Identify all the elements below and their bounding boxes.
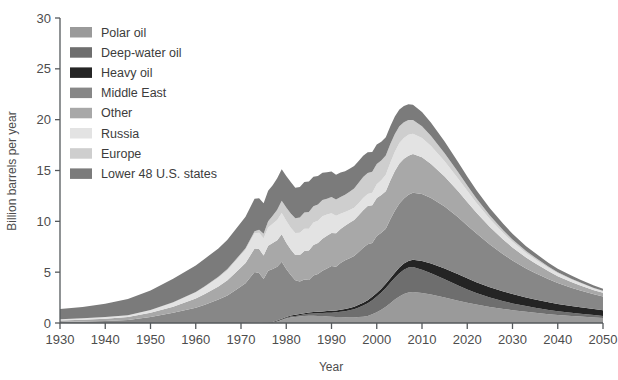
legend-swatch-russia bbox=[70, 128, 92, 139]
y-tick-label: 20 bbox=[37, 112, 51, 127]
x-tick-label: 2030 bbox=[498, 332, 527, 347]
x-tick-label: 2010 bbox=[408, 332, 437, 347]
legend-swatch-deep-water-oil bbox=[70, 47, 92, 58]
x-tick-label: 1980 bbox=[272, 332, 301, 347]
legend-swatch-lower-48-u-s-states bbox=[70, 168, 92, 179]
x-tick-label: 1990 bbox=[317, 332, 346, 347]
x-tick-label: 2000 bbox=[362, 332, 391, 347]
legend-label-lower-48-u-s-states: Lower 48 U.S. states bbox=[101, 167, 217, 181]
y-tick-label: 10 bbox=[37, 214, 51, 229]
x-tick-label: 1950 bbox=[136, 332, 165, 347]
legend-swatch-other bbox=[70, 108, 92, 119]
y-tick-label: 0 bbox=[44, 316, 51, 331]
legend-label-polar-oil: Polar oil bbox=[101, 26, 146, 40]
x-tick-label: 1960 bbox=[181, 332, 210, 347]
y-axis-title: Billion barrels per year bbox=[5, 111, 19, 230]
legend-label-other: Other bbox=[101, 106, 132, 120]
legend-label-deep-water-oil: Deep-water oil bbox=[101, 46, 182, 60]
x-tick-label: 1930 bbox=[46, 332, 75, 347]
y-tick-label: 15 bbox=[37, 163, 51, 178]
y-tick-label: 25 bbox=[37, 61, 51, 76]
legend-swatch-heavy-oil bbox=[70, 67, 92, 78]
legend-swatch-europe bbox=[70, 148, 92, 159]
x-axis-title: Year bbox=[319, 360, 343, 374]
oil-production-stacked-area-chart: 0510152025301930194019501960197019801990… bbox=[0, 0, 618, 380]
x-tick-label: 2050 bbox=[589, 332, 618, 347]
legend-label-europe: Europe bbox=[101, 147, 141, 161]
legend-label-russia: Russia bbox=[101, 127, 139, 141]
x-tick-label: 1970 bbox=[227, 332, 256, 347]
chart-root: 0510152025301930194019501960197019801990… bbox=[0, 0, 618, 380]
legend-label-heavy-oil: Heavy oil bbox=[101, 66, 152, 80]
x-tick-label: 1940 bbox=[91, 332, 120, 347]
legend-swatch-polar-oil bbox=[70, 27, 92, 38]
y-tick-label: 5 bbox=[44, 265, 51, 280]
y-tick-label: 30 bbox=[37, 11, 51, 26]
x-tick-label: 2040 bbox=[543, 332, 572, 347]
x-tick-label: 2020 bbox=[453, 332, 482, 347]
legend-swatch-middle-east bbox=[70, 88, 92, 99]
legend-label-middle-east: Middle East bbox=[101, 86, 167, 100]
